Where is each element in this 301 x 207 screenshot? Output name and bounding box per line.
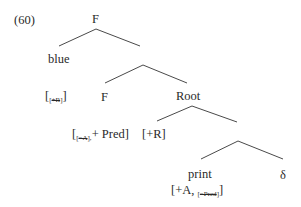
feature-root: [+R] [142, 128, 166, 141]
sub-feature: [−A], [76, 134, 91, 142]
feature-text: [+A, [171, 183, 194, 197]
branch-low-delta [238, 141, 283, 159]
node-root: Root [176, 90, 200, 103]
feature-inner-f: [[−A],+ Pred] [72, 128, 129, 142]
feature-print: [+A, [−Pred]] [171, 184, 223, 198]
branch-mid-root [143, 65, 187, 83]
bracket: ] [219, 183, 223, 197]
struck-feature: −A [79, 134, 88, 142]
struck-feature: +R [52, 96, 61, 104]
branch-mid-f [105, 65, 143, 83]
branch-f-blue [59, 29, 96, 46]
example-number: (60) [14, 14, 35, 27]
branch-low-print [201, 141, 238, 159]
branch-root-left [157, 106, 192, 121]
bracket: ] [62, 89, 66, 103]
node-blue: blue [48, 53, 70, 66]
branch-root-right [192, 106, 237, 122]
branch-f-right [96, 29, 140, 46]
feature-blue: [[+R]] [45, 90, 67, 104]
node-f-inner: F [101, 91, 108, 104]
feature-rest: + Pred] [92, 127, 129, 141]
sub-feature: [+R] [49, 96, 62, 104]
node-f-top: F [92, 13, 99, 26]
struck-feature: −Pred [200, 190, 217, 198]
sub-feature: [−Pred] [198, 190, 219, 198]
node-delta: δ [280, 169, 286, 182]
node-print: print [188, 168, 212, 181]
